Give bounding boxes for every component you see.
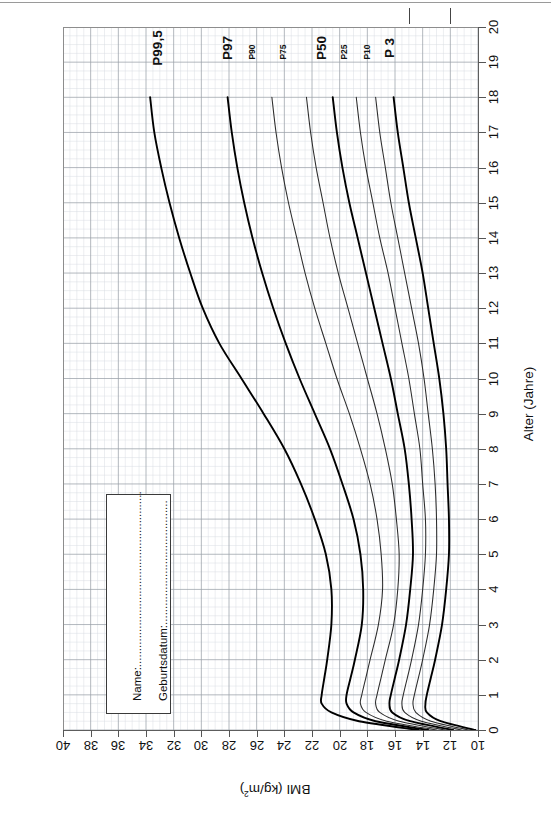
age-tick-label: 1 [487,681,501,709]
age-tick-label: 0 [487,716,501,744]
bmi-tick [478,730,479,737]
percentile-label-P25: P25 [336,17,352,87]
bmi-tick [450,730,451,737]
bmi-tick [367,730,368,737]
age-tick [478,273,486,274]
age-tick-label: 14 [487,224,501,252]
age-tick [478,625,486,626]
age-tick-label: 6 [487,505,501,533]
bmi-tick [201,730,202,737]
percentile-label-P10: P10 [359,17,375,87]
bmi-axis-label-exponent: 2 [244,789,249,799]
bmi-axis-label-text: BMI (kg/m [249,782,311,797]
bmi-tick [174,730,175,737]
percentile-label-P3: P 3 [382,13,398,83]
age-tick-label: 16 [487,154,501,182]
age-tick [478,27,486,28]
age-tick-label: 13 [487,259,501,287]
age-tick [478,168,486,169]
age-tick-label: 8 [487,435,501,463]
age-tick [478,660,486,661]
age-tick-label: 2 [487,646,501,674]
age-tick [478,62,486,63]
stray-tick-1 [409,8,410,24]
age-tick-label: 7 [487,470,501,498]
age-tick [478,414,486,415]
bmi-tick [229,730,230,737]
age-tick [478,589,486,590]
bmi-tick [340,730,341,737]
top-hairline [0,2,551,3]
age-tick-label: 10 [487,365,501,393]
age-tick [478,238,486,239]
axis-bmi [63,730,479,731]
birthdate-field-label[interactable]: Geburtsdatum:...........................… [155,491,171,701]
age-tick-label: 11 [487,329,501,357]
age-axis-label: Alter (Jahre) [521,329,539,479]
age-tick-label: 4 [487,575,501,603]
age-tick [478,484,486,485]
age-tick [478,554,486,555]
age-tick-label: 15 [487,189,501,217]
name-field-label[interactable]: Name:...................................… [129,491,145,701]
bmi-axis-label-paren: ) [240,782,245,797]
bmi-tick [395,730,396,737]
patient-id-box[interactable]: Name:...................................… [106,494,171,714]
age-tick-label: 18 [487,83,501,111]
age-tick-label: 17 [487,118,501,146]
age-tick [478,132,486,133]
stray-tick-2 [450,8,451,24]
age-tick [478,449,486,450]
age-tick [478,343,486,344]
age-tick-label: 12 [487,294,501,322]
bmi-tick [423,730,424,737]
age-tick-label: 9 [487,400,501,428]
age-tick [478,203,486,204]
bmi-tick [312,730,313,737]
percentile-label-P75: P75 [275,17,291,87]
bmi-tick [146,730,147,737]
age-tick [478,97,486,98]
age-tick-label: 3 [487,611,501,639]
bmi-tick [118,730,119,737]
percentile-label-P97: P97 [220,13,236,83]
bmi-tick [284,730,285,737]
bmi-tick [63,730,64,737]
age-tick [478,379,486,380]
axis-left [63,27,64,730]
age-tick-label: 19 [487,48,501,76]
bmi-tick [91,730,92,737]
age-tick [478,308,486,309]
age-tick [478,730,486,731]
age-tick [478,519,486,520]
age-tick-label: 20 [487,13,501,41]
percentile-label-P90: P90 [244,17,260,87]
age-tick [478,695,486,696]
age-tick-label: 5 [487,540,501,568]
axis-top [63,27,479,28]
percentile-label-P995: P99,5 [150,13,166,83]
percentile-label-P50: P50 [314,13,330,83]
bmi-tick [257,730,258,737]
bmi-axis-label: BMI (kg/m2) [175,782,375,799]
